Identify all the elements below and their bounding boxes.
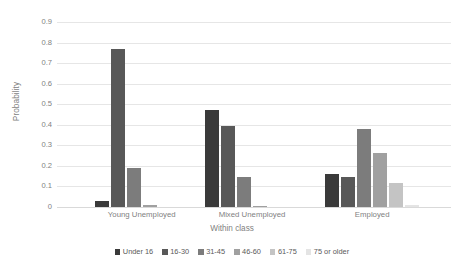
x-tick-label: Mixed Unemployed bbox=[219, 210, 286, 219]
legend-item[interactable]: 31-45 bbox=[198, 248, 225, 256]
bar bbox=[373, 153, 387, 207]
y-tick-label: 0.4 bbox=[26, 121, 52, 129]
x-tick-label: Employed bbox=[355, 210, 390, 219]
bar-group bbox=[92, 22, 192, 207]
y-tick-label: 0.8 bbox=[26, 39, 52, 47]
y-tick-label: 0.5 bbox=[26, 100, 52, 108]
bar bbox=[405, 205, 419, 207]
legend-item-label: 31-45 bbox=[206, 248, 225, 256]
legend-swatch-icon bbox=[306, 249, 312, 255]
legend-swatch-icon bbox=[162, 249, 168, 255]
legend-item-label: Under 16 bbox=[123, 248, 153, 256]
x-tick-label: Young Unemployed bbox=[108, 210, 176, 219]
bar-group bbox=[322, 22, 422, 207]
plot-area bbox=[57, 22, 451, 207]
y-tick-label: 0.2 bbox=[26, 162, 52, 170]
y-axis-title: Probability bbox=[12, 62, 21, 142]
bar bbox=[127, 168, 141, 207]
gridline bbox=[57, 207, 451, 208]
bar bbox=[253, 206, 267, 207]
legend-item[interactable]: 61-75 bbox=[270, 248, 297, 256]
y-tick-label: 0 bbox=[26, 203, 52, 211]
chart-legend: Under 1616-3031-4546-6061-7575 or older bbox=[0, 248, 464, 256]
y-axis-tick-labels: 0.90.80.70.60.50.40.30.20.10 bbox=[26, 22, 52, 207]
x-axis-title: Within class bbox=[0, 224, 464, 233]
x-axis-tick-labels: Young UnemployedMixed UnemployedEmployed bbox=[57, 210, 451, 222]
y-tick-label: 0.6 bbox=[26, 80, 52, 88]
bar bbox=[357, 129, 371, 207]
legend-swatch-icon bbox=[115, 249, 121, 255]
legend-item[interactable]: 16-30 bbox=[162, 248, 189, 256]
y-tick-label: 0.3 bbox=[26, 141, 52, 149]
bar bbox=[95, 201, 109, 207]
legend-item-label: 16-30 bbox=[170, 248, 189, 256]
bar-group bbox=[202, 22, 302, 207]
legend-item-label: 61-75 bbox=[278, 248, 297, 256]
bar-chart: Probability 0.90.80.70.60.50.40.30.20.10… bbox=[0, 0, 464, 263]
bar bbox=[111, 49, 125, 207]
bar bbox=[221, 126, 235, 207]
y-tick-label: 0.7 bbox=[26, 59, 52, 67]
bar bbox=[237, 177, 251, 207]
legend-swatch-icon bbox=[198, 249, 204, 255]
y-tick-label: 0.9 bbox=[26, 18, 52, 26]
bar bbox=[325, 174, 339, 207]
legend-swatch-icon bbox=[270, 249, 276, 255]
legend-swatch-icon bbox=[234, 249, 240, 255]
bar bbox=[341, 177, 355, 207]
legend-item[interactable]: 75 or older bbox=[306, 248, 349, 256]
legend-item-label: 46-60 bbox=[242, 248, 261, 256]
legend-item[interactable]: Under 16 bbox=[115, 248, 153, 256]
bar bbox=[389, 183, 403, 207]
legend-item-label: 75 or older bbox=[314, 248, 349, 256]
bar bbox=[143, 205, 157, 207]
y-tick-label: 0.1 bbox=[26, 182, 52, 190]
bar bbox=[205, 110, 219, 207]
legend-item[interactable]: 46-60 bbox=[234, 248, 261, 256]
